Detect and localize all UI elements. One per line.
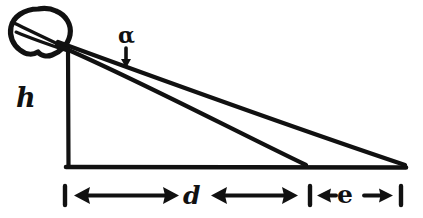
distance-label: d — [183, 183, 200, 208]
dim-e-arrowhead-right — [379, 189, 393, 203]
far-sight-ray — [58, 42, 405, 165]
extra-label: e — [337, 182, 353, 207]
height-line — [68, 48, 69, 166]
angle-label: α — [118, 24, 135, 46]
baseline-line — [66, 167, 406, 168]
dim-d-arrowhead-mid — [163, 187, 179, 204]
height-label: h — [16, 84, 36, 111]
diagram-canvas: h α d e — [0, 0, 423, 218]
dim-d-arrowhead-right — [282, 187, 298, 204]
sketch-drawing — [0, 0, 423, 218]
near-sight-ray — [57, 45, 306, 165]
